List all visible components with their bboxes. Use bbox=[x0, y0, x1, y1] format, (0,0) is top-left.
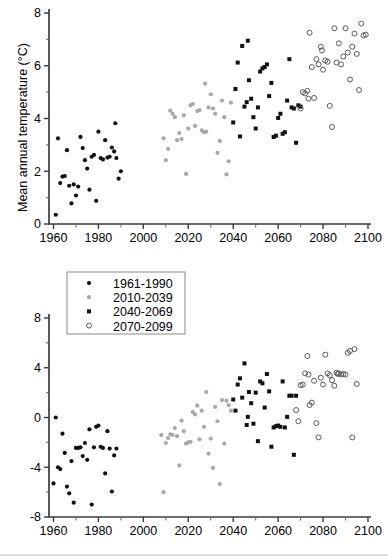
data-point bbox=[339, 62, 344, 67]
data-point bbox=[92, 445, 96, 449]
data-point bbox=[101, 446, 105, 450]
data-point bbox=[238, 134, 242, 138]
x-tick-label: 2000 bbox=[129, 231, 157, 245]
data-point bbox=[276, 116, 280, 120]
data-point bbox=[103, 138, 107, 142]
legend-marker-filled-circle bbox=[87, 281, 91, 285]
data-point bbox=[332, 383, 337, 388]
y-tick-label: 6 bbox=[34, 59, 41, 73]
data-point bbox=[274, 134, 278, 138]
data-point bbox=[60, 432, 64, 436]
data-point bbox=[184, 172, 188, 176]
data-point bbox=[67, 491, 71, 495]
legend-label: 2070-2099 bbox=[113, 320, 173, 334]
y-tick-label: 8 bbox=[34, 6, 41, 20]
data-point bbox=[220, 98, 224, 102]
data-point bbox=[54, 213, 58, 217]
x-tick-label: 1980 bbox=[85, 524, 113, 538]
data-point bbox=[352, 31, 357, 36]
data-point bbox=[58, 467, 62, 471]
x-tick-label: 2100 bbox=[354, 231, 382, 245]
data-point bbox=[316, 62, 321, 67]
x-tick-label: 2020 bbox=[174, 231, 202, 245]
data-point bbox=[332, 26, 337, 31]
y-axis-label-annual: Mean annual temperature (°C) bbox=[16, 43, 30, 212]
data-point bbox=[209, 437, 213, 441]
data-point bbox=[246, 39, 250, 43]
data-point bbox=[249, 97, 253, 101]
data-point bbox=[197, 437, 201, 441]
data-point bbox=[114, 446, 118, 450]
data-point bbox=[117, 177, 121, 181]
data-point bbox=[321, 382, 326, 387]
data-point bbox=[350, 435, 355, 440]
data-point bbox=[236, 61, 240, 65]
data-point bbox=[251, 115, 255, 119]
data-point bbox=[85, 458, 89, 462]
data-point bbox=[74, 193, 78, 197]
chart-panel-annual: Mean annual temperature (°C) 02468196019… bbox=[0, 0, 388, 262]
series-2070-2099 bbox=[294, 347, 360, 440]
data-point bbox=[69, 201, 73, 205]
data-point bbox=[283, 130, 287, 134]
data-point bbox=[78, 135, 82, 139]
data-point bbox=[65, 148, 69, 152]
data-point bbox=[294, 408, 299, 413]
figure-container: Mean annual temperature (°C) 02468196019… bbox=[0, 0, 388, 559]
data-point bbox=[285, 99, 289, 103]
data-point bbox=[305, 353, 310, 358]
legend-marker-filled-square bbox=[87, 309, 91, 313]
data-point bbox=[278, 112, 282, 116]
data-point bbox=[164, 158, 168, 162]
data-point bbox=[236, 383, 240, 387]
series-2040-2069 bbox=[231, 39, 302, 145]
data-point bbox=[267, 94, 271, 98]
data-point bbox=[222, 115, 226, 119]
data-point bbox=[87, 188, 91, 192]
data-point bbox=[63, 451, 67, 455]
data-point bbox=[227, 159, 231, 163]
data-point bbox=[76, 184, 80, 188]
y-tick-label: 2 bbox=[34, 165, 41, 179]
data-point bbox=[164, 441, 168, 445]
data-point bbox=[170, 112, 174, 116]
y-tick-label: 4 bbox=[34, 361, 41, 375]
x-tick-label: 1980 bbox=[85, 231, 113, 245]
data-point bbox=[283, 425, 287, 429]
data-point bbox=[58, 181, 62, 185]
data-point bbox=[173, 426, 177, 430]
data-point bbox=[307, 30, 312, 35]
data-point bbox=[247, 390, 251, 394]
data-point bbox=[78, 445, 82, 449]
chart-panel-spring: Mean spring temperature (°C) 1961-199020… bbox=[0, 262, 388, 559]
data-point bbox=[321, 67, 326, 72]
data-point bbox=[227, 403, 231, 407]
data-point bbox=[159, 433, 163, 437]
series-2040-2069 bbox=[231, 361, 298, 456]
data-point bbox=[179, 137, 183, 141]
data-point bbox=[112, 453, 116, 457]
data-point bbox=[312, 95, 317, 100]
data-point bbox=[251, 422, 255, 426]
series-1961-1990 bbox=[51, 415, 118, 506]
x-tick-label: 2080 bbox=[309, 524, 337, 538]
data-point bbox=[359, 21, 364, 26]
data-point bbox=[336, 41, 341, 46]
data-point bbox=[267, 389, 271, 393]
data-point bbox=[175, 138, 179, 142]
data-point bbox=[240, 44, 244, 48]
x-tick-label: 1960 bbox=[40, 231, 68, 245]
data-point bbox=[224, 172, 228, 176]
data-point bbox=[249, 401, 253, 405]
data-point bbox=[354, 51, 359, 56]
data-point bbox=[269, 445, 273, 449]
data-point bbox=[265, 62, 269, 66]
data-point bbox=[87, 427, 91, 431]
series-1961-1990 bbox=[54, 121, 123, 217]
data-point bbox=[287, 57, 291, 61]
data-point bbox=[161, 490, 165, 494]
data-point bbox=[193, 412, 197, 416]
data-point bbox=[197, 108, 201, 112]
data-point bbox=[343, 26, 348, 31]
x-tick-label: 2040 bbox=[219, 524, 247, 538]
